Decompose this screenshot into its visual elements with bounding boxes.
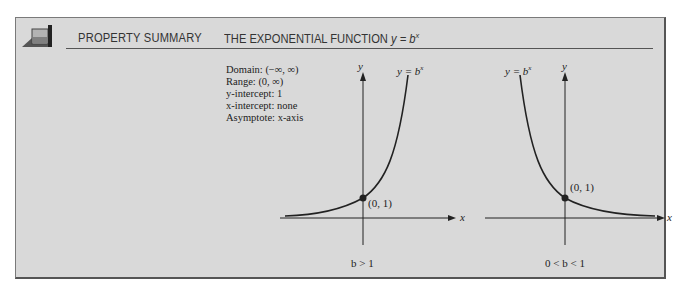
- title-text: THE EXPONENTIAL FUNCTION: [224, 32, 391, 46]
- graph2-caption: 0 < b < 1: [545, 257, 585, 269]
- graph1-curve-label: y = bx: [397, 64, 423, 77]
- title-exponent: x: [416, 31, 420, 40]
- graph1-y-label: y: [358, 60, 363, 72]
- section-title: THE EXPONENTIAL FUNCTION y = bx: [224, 31, 419, 46]
- graph1-x-label: x: [460, 211, 465, 223]
- graph-decay: [485, 55, 675, 255]
- graph2-x-label: x: [667, 211, 672, 223]
- graph1-point-label: (0, 1): [368, 197, 392, 209]
- graph-growth: [280, 55, 470, 255]
- graph2-curve-label: y = bx: [505, 64, 531, 77]
- graph2-point-label: (0, 1): [570, 181, 594, 193]
- graph2-y-label: y: [562, 60, 567, 72]
- title-formula: y = b: [391, 32, 416, 46]
- section-label: PROPERTY SUMMARY: [78, 31, 202, 45]
- graph1-caption: b > 1: [351, 257, 374, 269]
- header-divider: [66, 48, 653, 49]
- property-summary-icon: [22, 25, 67, 47]
